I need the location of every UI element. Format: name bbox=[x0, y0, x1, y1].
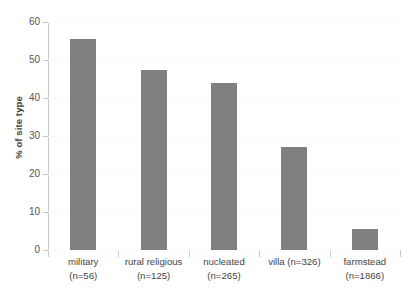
bar bbox=[352, 229, 378, 250]
y-axis-tick-mark bbox=[43, 22, 48, 23]
category-label-line2: (n=265) bbox=[185, 269, 263, 283]
bar bbox=[141, 70, 167, 251]
category-label-line1: rural religious bbox=[125, 256, 183, 267]
y-axis-tick-label: 10 bbox=[0, 207, 40, 217]
gridline bbox=[48, 250, 400, 251]
x-axis-tick-mark bbox=[48, 251, 49, 257]
x-axis-tick-mark bbox=[330, 251, 331, 257]
x-axis-tick-mark bbox=[259, 251, 260, 257]
x-axis-category-labels: military(n=56)rural religious(n=125)nucl… bbox=[48, 255, 400, 299]
category-label-line2: (n=125) bbox=[115, 269, 193, 283]
y-axis-tick-mark bbox=[43, 212, 48, 213]
x-axis-category-label: villa (n=326) bbox=[255, 255, 333, 269]
bar bbox=[281, 147, 307, 250]
category-label-line2: (n=56) bbox=[44, 269, 122, 283]
category-label-line1: farmstead bbox=[343, 256, 386, 267]
x-axis-category-label: military(n=56) bbox=[44, 255, 122, 282]
y-axis-tick-mark bbox=[43, 136, 48, 137]
y-axis-tick-mark bbox=[43, 60, 48, 61]
x-axis-tick-mark bbox=[189, 251, 190, 257]
x-axis-category-label: rural religious(n=125) bbox=[115, 255, 193, 282]
y-axis-tick-labels: 0102030405060 bbox=[0, 0, 40, 299]
category-label-line2: (n=1866) bbox=[326, 269, 404, 283]
y-axis-tick-mark bbox=[43, 98, 48, 99]
x-axis-category-label: farmstead(n=1866) bbox=[326, 255, 404, 282]
x-axis-category-label: nucleated(n=265) bbox=[185, 255, 263, 282]
y-axis-tick-mark bbox=[43, 174, 48, 175]
x-axis-tick-mark bbox=[118, 251, 119, 257]
bar-chart: % of site type 0102030405060 military(n=… bbox=[0, 0, 414, 299]
y-axis-tick-label: 20 bbox=[0, 169, 40, 179]
y-axis-tick-label: 30 bbox=[0, 131, 40, 141]
y-axis-tick-label: 50 bbox=[0, 55, 40, 65]
y-axis-tick-label: 40 bbox=[0, 93, 40, 103]
bar bbox=[211, 83, 237, 250]
category-label-line1: military bbox=[68, 256, 98, 267]
category-label-line1: nucleated bbox=[203, 256, 245, 267]
bars-layer bbox=[48, 22, 400, 250]
category-label-line1: villa (n=326) bbox=[268, 256, 321, 267]
y-axis-tick-label: 60 bbox=[0, 17, 40, 27]
y-axis-tick-label: 0 bbox=[0, 245, 40, 255]
x-axis-tick-mark bbox=[400, 251, 401, 257]
bar bbox=[70, 39, 96, 250]
